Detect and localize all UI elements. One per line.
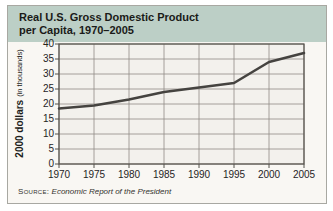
y-axis-title-main: 2000 dollars xyxy=(14,100,25,158)
y-tick-label: 15 xyxy=(43,113,54,125)
y-tick-label: 40 xyxy=(43,38,54,50)
y-tick-label: 10 xyxy=(43,128,54,140)
chart-title-line2: per Capita, 1970–2005 xyxy=(19,24,326,37)
x-tick-label: 1985 xyxy=(147,169,181,180)
chart-title-line1: Real U.S. Gross Domestic Product xyxy=(19,11,326,24)
x-tick-label: 1970 xyxy=(42,169,76,180)
gdp-figure: Real U.S. Gross Domestic Product per Cap… xyxy=(7,5,327,204)
x-tick-label: 1980 xyxy=(112,169,146,180)
y-axis-tick-labels: 40 35 30 25 20 15 10 5 0 xyxy=(28,38,54,170)
x-tick-label: 1995 xyxy=(217,169,251,180)
source-text: Economic Report of the President xyxy=(52,187,172,196)
x-tick-label: 2000 xyxy=(252,169,286,180)
figure-header: Real U.S. Gross Domestic Product per Cap… xyxy=(8,6,326,42)
source-note: Source: Economic Report of the President xyxy=(18,187,171,196)
y-tick-label: 30 xyxy=(43,68,54,80)
gdp-line-chart xyxy=(54,43,310,170)
chart-title: Real U.S. Gross Domestic Product per Cap… xyxy=(19,11,326,37)
y-tick-label: 25 xyxy=(43,83,54,95)
source-prefix: Source: xyxy=(18,187,49,196)
x-tick-label: 1975 xyxy=(77,169,111,180)
x-tick-label: 2005 xyxy=(287,169,321,180)
x-tick-label: 1990 xyxy=(182,169,216,180)
y-tick-label: 20 xyxy=(43,98,54,110)
x-axis-tick-labels: 1970 1975 1980 1985 1990 1995 2000 2005 xyxy=(42,169,321,180)
y-axis-title-note: (in thousands) xyxy=(15,49,24,97)
y-axis-title: 2000 dollars (in thousands) xyxy=(11,43,27,164)
y-tick-label: 35 xyxy=(43,53,54,65)
